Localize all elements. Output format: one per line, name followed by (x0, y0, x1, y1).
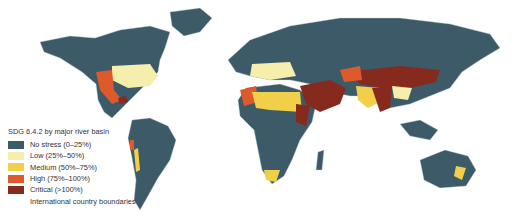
legend-swatch (8, 186, 24, 194)
legend-label: High (75%–100%) (30, 174, 90, 183)
legend-swatch (8, 197, 24, 205)
legend-swatch (8, 152, 24, 160)
map-legend: SDG 6.4.2 by major river basin No stress… (8, 127, 136, 207)
legend-label: Medium (50%–75%) (30, 163, 97, 172)
legend-title: SDG 6.4.2 by major river basin (8, 127, 136, 136)
legend-label: Low (25%–50%) (30, 151, 84, 160)
legend-swatch (8, 141, 24, 149)
legend-item-no-stress: No stress (0–25%) (8, 139, 136, 150)
legend-label: International country boundaries (30, 197, 136, 206)
legend-swatch (8, 175, 24, 183)
legend-label: Critical (>100%) (30, 185, 83, 194)
legend-label: No stress (0–25%) (30, 140, 91, 149)
legend-item-low: Low (25%–50%) (8, 150, 136, 161)
legend-swatch (8, 163, 24, 171)
legend-item-medium: Medium (50%–75%) (8, 162, 136, 173)
legend-item-boundaries: International country boundaries (8, 195, 136, 206)
legend-item-critical: Critical (>100%) (8, 184, 136, 195)
legend-item-high: High (75%–100%) (8, 173, 136, 184)
